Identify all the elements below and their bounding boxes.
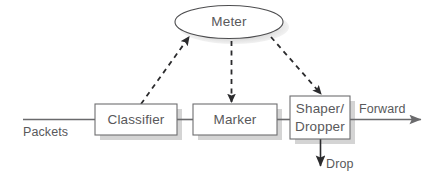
forward-label: Forward — [359, 102, 406, 116]
packets-label: Packets — [23, 125, 68, 139]
meter-edge-layer — [141, 37, 321, 104]
edge-meter-to-shaper — [271, 37, 321, 94]
edge-classifier-to-meter — [141, 37, 189, 104]
diagram-canvas: Meter Classifier Marker Shaper/ Dropper … — [0, 0, 443, 179]
classifier-label: Classifier — [107, 112, 164, 127]
traffic-conditioner-diagram: Meter Classifier Marker Shaper/ Dropper … — [0, 0, 443, 179]
meter-label: Meter — [211, 14, 247, 29]
marker-label: Marker — [214, 112, 257, 127]
shaper-dropper-label-line2: Dropper — [295, 119, 345, 134]
shaper-dropper-label-line1: Shaper/ — [296, 101, 344, 116]
drop-label: Drop — [326, 157, 354, 171]
